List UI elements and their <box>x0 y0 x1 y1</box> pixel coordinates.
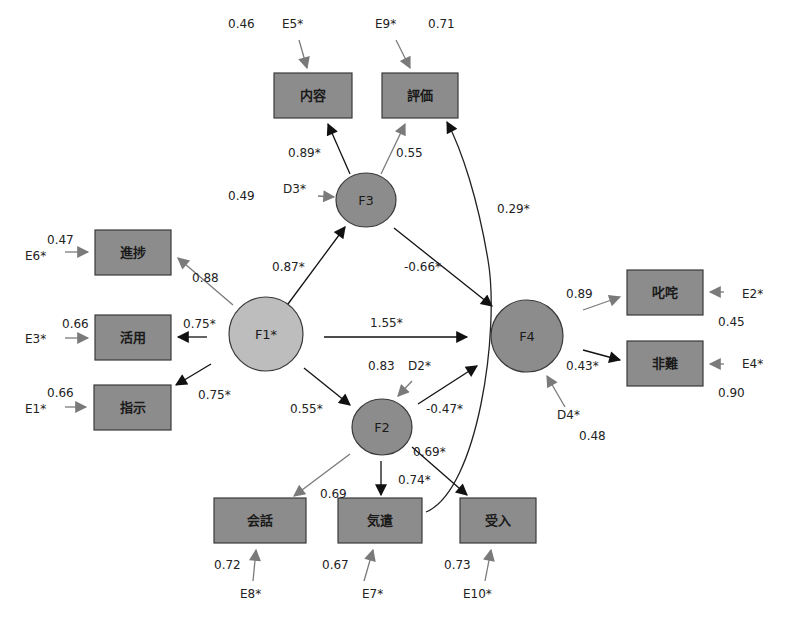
path-coefficient: 0.75* <box>198 388 231 402</box>
path-coefficient: 0.88 <box>192 271 219 285</box>
observed-label: 進捗 <box>120 245 146 260</box>
error-variance: 0.48 <box>579 429 606 443</box>
error-variance: 0.45 <box>718 315 745 329</box>
error-arrow <box>299 40 307 68</box>
error-term-name: E2* <box>742 287 763 301</box>
path-coefficient: 0.89* <box>288 146 321 160</box>
error-term-name: E7* <box>362 587 383 601</box>
observed-label: 内容 <box>300 88 326 103</box>
error-variance: 0.83 <box>368 359 395 373</box>
error-variance: 0.71 <box>428 17 455 31</box>
factor-F3: F3 <box>336 173 396 227</box>
error-term-name: E8* <box>240 587 261 601</box>
error-term-name: E1* <box>25 402 46 416</box>
path-coefficient: 0.87* <box>272 260 305 274</box>
error-variance: 0.67 <box>322 558 349 572</box>
observed-label: 非難 <box>652 356 678 371</box>
path-coefficient: 0.43* <box>566 359 599 373</box>
path-coefficient: 1.55* <box>370 316 403 330</box>
error-arrow <box>253 550 256 581</box>
path-coefficient: -0.47* <box>426 402 463 416</box>
observed-box-shitta: 叱咤 <box>627 270 703 315</box>
observed-label: 気遣 <box>367 513 393 528</box>
error-term-name: E4* <box>742 357 763 371</box>
error-arrow <box>364 550 373 581</box>
covariance-coefficient: 0.29* <box>497 202 530 216</box>
factor-label: F2 <box>374 420 390 435</box>
error-term-name: E5* <box>282 17 303 31</box>
observed-box-kaiwa: 会話 <box>214 498 306 543</box>
error-term-name: E10* <box>463 587 492 601</box>
factor-label: F4 <box>519 329 535 344</box>
path-coefficient: 0.55* <box>290 402 323 416</box>
path-arrow-4 <box>176 364 211 385</box>
error-arrow <box>485 550 491 581</box>
factor-F2: F2 <box>352 399 412 455</box>
path-arrow-7 <box>304 368 350 405</box>
error-variance: 0.46 <box>228 17 255 31</box>
observed-box-naiyou: 内容 <box>274 73 352 118</box>
path-coefficient: -0.66* <box>404 260 441 274</box>
error-term-name: D4* <box>557 408 580 422</box>
path-arrow-0 <box>328 124 350 174</box>
factor-F4: F4 <box>491 300 563 372</box>
error-arrow <box>547 376 565 407</box>
observed-box-katsuyou: 活用 <box>95 315 171 360</box>
error-variance: 0.47 <box>47 233 74 247</box>
observed-box-kizukai: 気遣 <box>338 498 422 543</box>
error-variance: 0.49 <box>228 189 255 203</box>
error-arrow <box>318 196 334 197</box>
observed-label: 評価 <box>407 88 433 103</box>
error-term-name: D2* <box>408 359 431 373</box>
observed-box-hinan: 非難 <box>627 341 703 386</box>
observed-label: 活用 <box>120 330 146 345</box>
error-variance: 0.72 <box>214 558 241 572</box>
observed-box-shinchoku: 進捗 <box>95 230 171 275</box>
path-coefficient: 0.55 <box>396 146 423 160</box>
path-coefficient: 0.69 <box>320 487 347 501</box>
path-coefficient: 0.89 <box>566 287 593 301</box>
path-coefficient: 0.75* <box>183 317 216 331</box>
error-arrow <box>396 40 410 68</box>
factor-label: F1* <box>255 327 278 342</box>
error-term-name: E3* <box>25 332 46 346</box>
factor-F1: F1* <box>229 297 303 371</box>
path-diagram: 0.29* E5*0.46E9*0.71D3*0.49E6*0.47E3*0.6… <box>0 0 786 621</box>
error-variance: 0.90 <box>718 386 745 400</box>
error-term-name: D3* <box>283 182 306 196</box>
error-variance: 0.66 <box>47 386 74 400</box>
error-term-name: E9* <box>375 17 396 31</box>
error-variance: 0.66 <box>62 317 89 331</box>
error-arrow <box>398 381 412 396</box>
factor-label: F3 <box>358 193 374 208</box>
error-variance: 0.73 <box>444 558 471 572</box>
path-coefficient: 0.69* <box>413 445 446 459</box>
error-term-name: E6* <box>25 249 46 263</box>
observed-label: 叱咤 <box>652 285 678 300</box>
observed-box-ukeire: 受入 <box>460 498 536 543</box>
observed-label: 会話 <box>247 513 273 528</box>
observed-label: 受入 <box>485 513 511 528</box>
observed-box-shiji: 指示 <box>94 385 171 430</box>
path-coefficient: 0.74* <box>398 473 431 487</box>
observed-box-hyouka: 評価 <box>382 73 458 118</box>
observed-label: 指示 <box>120 400 146 415</box>
